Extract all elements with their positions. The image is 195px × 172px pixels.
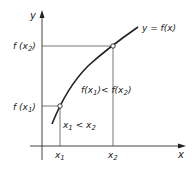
x1-tick-label: x1	[54, 150, 65, 162]
monotonic-function-diagram: y x y = f(x) f (x2) f (x1) x1 x2 x1 < x2…	[0, 0, 195, 172]
f-x1-label: f (x1)	[13, 102, 36, 114]
y-axis-label: y	[29, 10, 37, 21]
x2-tick-label: x2	[107, 150, 118, 162]
f-relation-annotation: f(x1)< f(x2)	[81, 85, 131, 97]
x-axis-label: x	[177, 149, 184, 160]
curve-label: y = f(x)	[141, 23, 176, 33]
f-x2-label: f (x2)	[13, 41, 36, 53]
point-2-marker	[111, 44, 115, 48]
point-1-marker	[58, 104, 62, 108]
x-axis-arrow-icon	[178, 144, 186, 149]
function-curve	[52, 27, 138, 124]
y-axis-arrow-icon	[40, 10, 45, 18]
x-relation-annotation: x1 < x2	[62, 120, 96, 132]
